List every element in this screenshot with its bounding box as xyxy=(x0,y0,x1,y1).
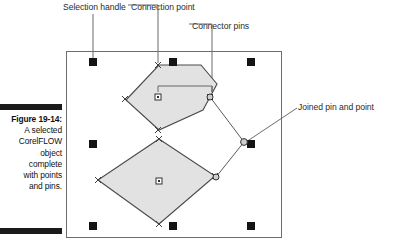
selection-handle[interactable] xyxy=(89,58,97,66)
connector-pin[interactable] xyxy=(207,94,213,100)
hexagon-shape[interactable] xyxy=(126,65,217,130)
selection-handle[interactable] xyxy=(169,58,177,66)
leader-connection-point xyxy=(128,5,158,63)
figure-illustration: Figure 19-14: A selected CorelFLOW objec… xyxy=(0,0,408,249)
connector-pins[interactable] xyxy=(207,94,247,180)
center-dot xyxy=(157,96,159,98)
selection-handle[interactable] xyxy=(247,140,255,148)
connector-line[interactable] xyxy=(210,97,244,177)
selection-handle[interactable] xyxy=(89,222,97,230)
selection-handle[interactable] xyxy=(247,222,255,230)
selection-handle[interactable] xyxy=(89,140,97,148)
selection-handle[interactable] xyxy=(169,222,177,230)
selection-handle[interactable] xyxy=(247,58,255,66)
leader-joined-pin-point xyxy=(246,108,297,142)
center-dot xyxy=(158,180,160,182)
diagram-canvas xyxy=(0,0,408,249)
connector-pin[interactable] xyxy=(213,174,219,180)
joined-pin-and-point[interactable] xyxy=(241,139,248,146)
